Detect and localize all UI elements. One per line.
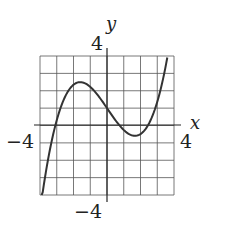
- function-curve: [42, 58, 168, 195]
- cubic-graph: x y −4 4 4 −4: [0, 0, 226, 227]
- y-axis-label: y: [105, 13, 117, 34]
- y-min-label: −4: [74, 200, 102, 222]
- x-max-label: 4: [180, 130, 192, 152]
- x-min-label: −4: [6, 130, 34, 152]
- y-max-label: 4: [91, 32, 103, 54]
